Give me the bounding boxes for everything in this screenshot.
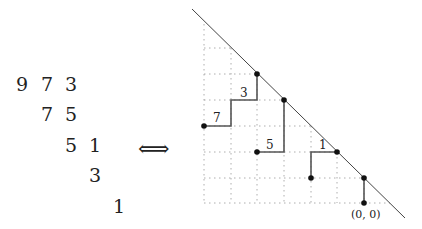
lattice-paths bbox=[204, 74, 364, 203]
edge-label: 3 bbox=[240, 86, 248, 100]
origin-label: (0, 0) bbox=[351, 208, 381, 221]
edge-label: 7 bbox=[213, 111, 221, 125]
edge-label: 1 bbox=[319, 138, 327, 152]
edge-label: 5 bbox=[266, 138, 274, 152]
diagonal-line bbox=[192, 9, 405, 218]
lattice-path-diagram: 7 3 5 1 (0, 0) bbox=[0, 0, 422, 229]
